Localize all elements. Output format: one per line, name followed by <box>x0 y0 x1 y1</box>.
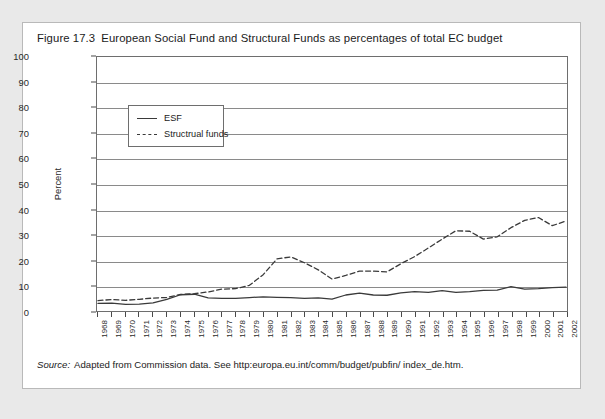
y-tick-label: 100 <box>0 51 29 62</box>
legend-item-structural-funds: Structrual funds <box>137 129 228 139</box>
x-tick-label: 1978 <box>238 320 247 338</box>
x-tick-mark <box>221 312 222 317</box>
x-tick-mark <box>429 312 430 317</box>
x-tick-label: 1996 <box>487 320 496 338</box>
y-tick-label: 10 <box>0 281 29 292</box>
plot-area <box>96 56 568 312</box>
x-tick-label: 1999 <box>529 320 538 338</box>
x-tick-label: 1985 <box>335 320 344 338</box>
x-tick-mark <box>553 312 554 317</box>
x-tick-mark <box>194 312 195 317</box>
series-lines <box>97 57 567 311</box>
x-tick-mark <box>360 312 361 317</box>
x-tick-mark <box>332 312 333 317</box>
legend-label-structural-funds: Structrual funds <box>164 129 228 139</box>
x-tick-label: 1979 <box>252 320 261 338</box>
x-tick-label: 1990 <box>404 320 413 338</box>
x-tick-mark <box>484 312 485 317</box>
x-tick-mark <box>180 312 181 317</box>
x-tick-label: 1976 <box>211 320 220 338</box>
figure-number: Figure 17.3 <box>37 32 95 44</box>
y-tick-label: 40 <box>0 204 29 215</box>
y-tick-label: 50 <box>0 179 29 190</box>
y-axis-title: Percent <box>52 168 63 200</box>
source-note: Source:Adapted from Commission data. See… <box>37 359 463 370</box>
y-tick-label: 90 <box>0 76 29 87</box>
x-tick-label: 1997 <box>501 320 510 338</box>
figure-title: Figure 17.3European Social Fund and Stru… <box>37 32 503 44</box>
x-tick-mark <box>526 312 527 317</box>
x-tick-label: 1984 <box>321 320 330 338</box>
x-tick-label: 1988 <box>377 320 386 338</box>
x-tick-label: 1982 <box>294 320 303 338</box>
x-tick-mark <box>539 312 540 317</box>
legend-label-esf: ESF <box>164 113 182 123</box>
x-tick-mark <box>304 312 305 317</box>
x-tick-label: 1987 <box>363 320 372 338</box>
x-tick-mark <box>346 312 347 317</box>
x-tick-label: 1991 <box>418 320 427 338</box>
x-tick-label: 1981 <box>280 320 289 338</box>
x-tick-mark <box>401 312 402 317</box>
x-tick-mark <box>387 312 388 317</box>
x-tick-mark <box>97 312 98 317</box>
y-tick-label: 80 <box>0 102 29 113</box>
x-tick-label: 1968 <box>100 320 109 338</box>
x-tick-label: 1971 <box>142 320 151 338</box>
x-tick-mark <box>470 312 471 317</box>
legend-swatch-solid-icon <box>137 118 157 119</box>
x-tick-mark <box>415 312 416 317</box>
legend: ESF Structrual funds <box>128 105 224 147</box>
source-text: Adapted from Commission data. See http:e… <box>74 359 463 370</box>
y-tick-label: 0 <box>0 307 29 318</box>
x-tick-label: 1998 <box>515 320 524 338</box>
x-tick-label: 1970 <box>128 320 137 338</box>
x-tick-label: 1992 <box>432 320 441 338</box>
x-tick-label: 2002 <box>570 320 579 338</box>
figure-title-text: European Social Fund and Structural Fund… <box>101 32 502 44</box>
y-tick-label: 20 <box>0 255 29 266</box>
figure-card: Figure 17.3European Social Fund and Stru… <box>22 22 581 389</box>
x-tick-label: 1980 <box>266 320 275 338</box>
x-tick-mark <box>567 312 568 317</box>
x-tick-mark <box>152 312 153 317</box>
source-label: Source: <box>37 359 70 370</box>
x-tick-mark <box>208 312 209 317</box>
x-tick-label: 1969 <box>114 320 123 338</box>
series-line-esf <box>98 287 566 305</box>
x-tick-mark <box>125 312 126 317</box>
x-tick-label: 1986 <box>349 320 358 338</box>
series-line-structrual-funds <box>98 218 566 301</box>
y-tick-label: 60 <box>0 153 29 164</box>
x-tick-label: 1973 <box>169 320 178 338</box>
x-tick-mark <box>456 312 457 317</box>
x-tick-label: 1977 <box>225 320 234 338</box>
x-tick-mark <box>443 312 444 317</box>
y-tick-label: 70 <box>0 127 29 138</box>
x-tick-mark <box>277 312 278 317</box>
x-tick-mark <box>235 312 236 317</box>
x-tick-label: 1989 <box>390 320 399 338</box>
legend-item-esf: ESF <box>137 113 182 123</box>
x-tick-mark <box>318 312 319 317</box>
x-tick-label: 2001 <box>556 320 565 338</box>
x-tick-mark <box>111 312 112 317</box>
x-tick-label: 1993 <box>446 320 455 338</box>
x-tick-label: 1994 <box>460 320 469 338</box>
x-tick-label: 2000 <box>543 320 552 338</box>
x-tick-mark <box>166 312 167 317</box>
x-tick-label: 1972 <box>155 320 164 338</box>
y-tick-label: 30 <box>0 230 29 241</box>
legend-swatch-dashed-icon <box>137 134 157 135</box>
x-tick-mark <box>512 312 513 317</box>
x-tick-mark <box>263 312 264 317</box>
x-tick-label: 1983 <box>308 320 317 338</box>
x-tick-mark <box>138 312 139 317</box>
x-tick-mark <box>373 312 374 317</box>
x-tick-mark <box>498 312 499 317</box>
x-tick-label: 1975 <box>197 320 206 338</box>
x-tick-mark <box>291 312 292 317</box>
x-tick-label: 1974 <box>183 320 192 338</box>
x-tick-mark <box>249 312 250 317</box>
x-tick-label: 1995 <box>473 320 482 338</box>
